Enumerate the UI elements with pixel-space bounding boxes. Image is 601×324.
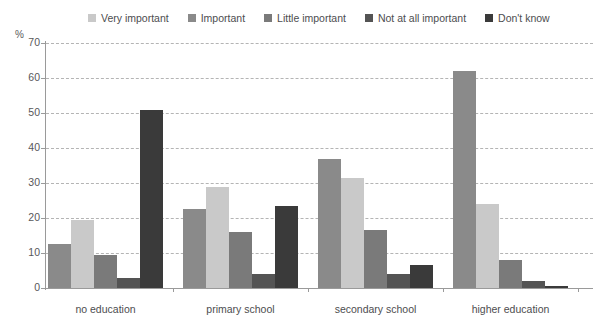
x-axis-group-separator xyxy=(443,288,444,292)
bar xyxy=(453,71,476,288)
y-axis-tick-label: 30 xyxy=(16,176,40,188)
y-axis-tick-label: 40 xyxy=(16,141,40,153)
bar xyxy=(183,209,206,288)
bar xyxy=(252,274,275,288)
bar xyxy=(140,110,163,289)
y-axis-tick-label: 20 xyxy=(16,211,40,223)
x-axis-group-separator xyxy=(308,288,309,292)
x-axis-category-label: no education xyxy=(75,303,135,315)
x-axis-category-label: higher education xyxy=(472,303,550,315)
plot-area xyxy=(46,43,593,288)
bar xyxy=(318,159,341,289)
gridline xyxy=(46,78,593,79)
legend-item[interactable]: Very important xyxy=(88,13,169,24)
y-axis-tick-label: 0 xyxy=(16,281,40,293)
legend-item[interactable]: Don't know xyxy=(485,13,550,24)
y-axis-tick-label: 50 xyxy=(16,106,40,118)
bar-chart: Very importantImportantLittle importantN… xyxy=(0,0,601,324)
bar xyxy=(229,232,252,288)
legend-item[interactable]: Little important xyxy=(264,13,346,24)
y-axis-tick-mark xyxy=(41,288,46,289)
x-axis-category-label: secondary school xyxy=(335,303,417,315)
bar xyxy=(476,204,499,288)
bar xyxy=(94,255,117,288)
legend-item-label: Don't know xyxy=(498,13,550,24)
bar xyxy=(499,260,522,288)
x-axis-group-separator xyxy=(578,288,579,292)
x-axis-category-label: primary school xyxy=(206,303,274,315)
bar xyxy=(206,187,229,289)
bar xyxy=(71,220,94,288)
gridline xyxy=(46,113,593,114)
legend-item-label: Not at all important xyxy=(378,13,466,24)
bar xyxy=(364,230,387,288)
gridline xyxy=(46,148,593,149)
bar xyxy=(522,281,545,288)
y-axis-tick-label: 10 xyxy=(16,246,40,258)
legend-item-label: Little important xyxy=(277,13,346,24)
legend-item-label: Very important xyxy=(101,13,169,24)
bar xyxy=(387,274,410,288)
legend-item-label: Important xyxy=(201,13,245,24)
legend-item[interactable]: Important xyxy=(188,13,245,24)
legend-swatch-icon xyxy=(485,14,493,22)
y-axis-tick-label: 70 xyxy=(16,36,40,48)
legend-item[interactable]: Not at all important xyxy=(365,13,466,24)
legend-swatch-icon xyxy=(365,14,373,22)
bar xyxy=(410,265,433,288)
legend-swatch-icon xyxy=(88,14,96,22)
bar xyxy=(48,244,71,288)
x-axis-baseline xyxy=(45,288,593,289)
y-axis-tick-label: 60 xyxy=(16,71,40,83)
gridline xyxy=(46,43,593,44)
legend-swatch-icon xyxy=(264,14,272,22)
bar xyxy=(275,206,298,288)
chart-legend: Very importantImportantLittle importantN… xyxy=(88,11,550,25)
bar xyxy=(341,178,364,288)
legend-swatch-icon xyxy=(188,14,196,22)
bar xyxy=(117,278,140,289)
x-axis-group-separator xyxy=(173,288,174,292)
bar xyxy=(545,286,568,288)
